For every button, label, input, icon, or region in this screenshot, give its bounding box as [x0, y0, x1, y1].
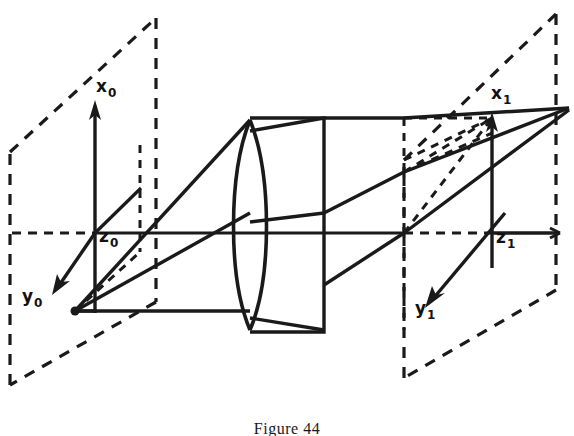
- label-z1: z1: [496, 229, 515, 250]
- ray-upper-out: [250, 118, 324, 131]
- label-x0-base: x: [96, 76, 107, 96]
- label-z1-base: z: [496, 227, 506, 247]
- object-axes: [52, 100, 101, 313]
- image-plane-outline: [404, 14, 556, 378]
- label-y1-sub: 1: [426, 308, 435, 322]
- label-z0-base: z: [99, 226, 109, 246]
- figure-caption: Figure 44: [0, 420, 574, 436]
- label-y1-base: y: [415, 298, 426, 318]
- label-x1-base: x: [491, 83, 502, 103]
- label-z1-sub: 1: [506, 237, 515, 251]
- ray-upper-in: [75, 120, 250, 311]
- optical-figure: x0 y0 z0 x1 y1 z1 Figure 44: [0, 0, 574, 436]
- y0-axis: [58, 233, 95, 287]
- object-plane-outline: [10, 18, 156, 385]
- label-x1-sub: 1: [502, 93, 511, 107]
- label-x0-sub: 0: [107, 86, 116, 100]
- label-y0-base: y: [22, 286, 33, 306]
- ray-bundle: [71, 108, 570, 330]
- label-y0: y0: [22, 288, 42, 309]
- y1-axis: [432, 213, 505, 300]
- label-y1: y1: [415, 300, 435, 321]
- ray-conv-bot: [404, 110, 569, 233]
- label-y0-sub: 0: [33, 296, 42, 310]
- label-x1: x1: [491, 85, 511, 106]
- lens-element: [234, 120, 267, 330]
- ray-lower-out: [250, 318, 324, 330]
- label-z0-sub: 0: [109, 236, 118, 250]
- label-x0: x0: [96, 78, 116, 99]
- label-z0: z0: [99, 228, 118, 249]
- optical-diagram-svg: [0, 0, 574, 436]
- ray-middle-out: [250, 213, 324, 222]
